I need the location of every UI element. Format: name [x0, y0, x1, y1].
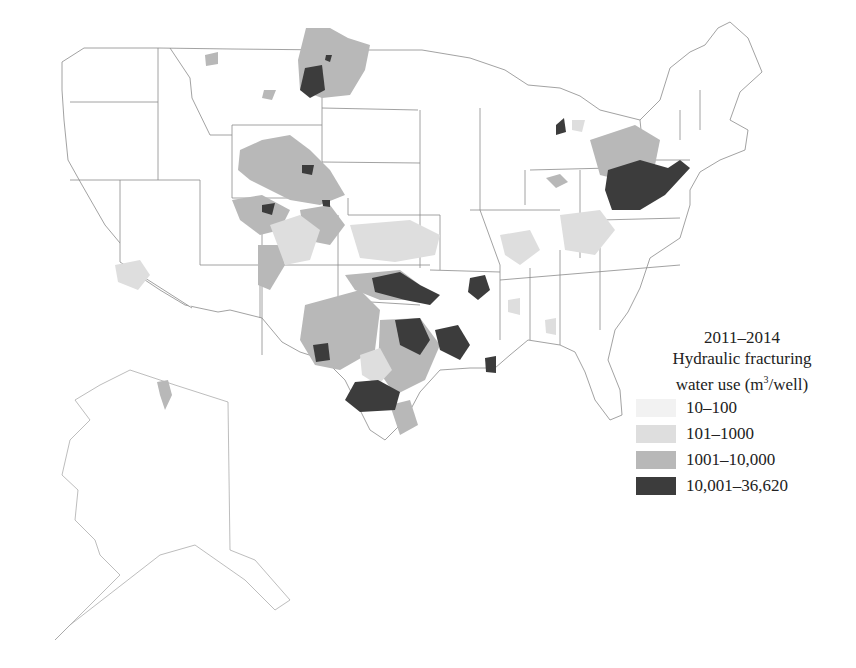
legend-title-years: 2011–2014: [628, 327, 856, 348]
legend-title-units: water use (m3/well): [628, 369, 856, 395]
legend-title-label: Hydraulic fracturing: [628, 348, 856, 369]
legend-item: 1001–10,000: [628, 448, 856, 473]
legend-label: 101–1000: [686, 424, 754, 444]
legend-swatch: [636, 399, 676, 417]
legend-item: 10,001–36,620: [628, 474, 856, 499]
legend-item: 101–1000: [628, 422, 856, 447]
legend-label: 10–100: [686, 398, 737, 418]
legend-item: 10–100: [628, 396, 856, 421]
alaska-outline: [55, 370, 290, 640]
legend-label: 10,001–36,620: [686, 476, 788, 496]
legend-label: 1001–10,000: [686, 450, 775, 470]
legend: 2011–2014 Hydraulic fracturing water use…: [628, 327, 856, 499]
legend-swatch: [636, 477, 676, 495]
legend-swatch: [636, 425, 676, 443]
legend-swatch: [636, 451, 676, 469]
